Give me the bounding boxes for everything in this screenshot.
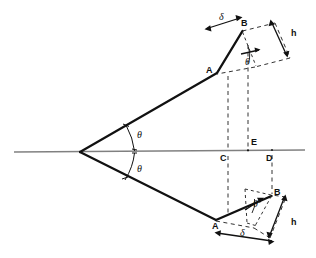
- theta-top-indicator-arrowhead: [255, 48, 261, 53]
- h-bottom-arrowhead-upper: [281, 195, 287, 202]
- lower-segment-ab-line: [216, 196, 272, 220]
- label-theta-top-right: θ: [245, 57, 250, 67]
- dashed-baseline-to-a-top: [217, 67, 255, 74]
- dashed-corner2-to-baseline-top: [255, 58, 290, 67]
- label-point-a-bottom: A: [212, 222, 219, 231]
- label-theta-bottom-right: θ: [253, 199, 258, 209]
- label-point-d: D: [266, 154, 273, 163]
- figure-root: A B A B C E D θ θ θ θ δ δ h h: [0, 0, 316, 258]
- delta-bottom-arrowhead-left: [215, 230, 222, 236]
- label-theta-lower-vertex: θ: [137, 164, 142, 174]
- label-point-b-bottom: B: [274, 188, 281, 197]
- delta-bottom-arrowhead-right: [268, 239, 275, 245]
- theta-lower-arc-tick-bottom: [122, 177, 128, 179]
- ray-diagram-canvas: [0, 0, 316, 258]
- upper-ray-line: [80, 73, 217, 152]
- label-delta-bottom: δ: [240, 228, 245, 238]
- label-h-top: h: [291, 29, 297, 38]
- optical-axis-line: [14, 150, 305, 152]
- label-point-a-top: A: [206, 66, 213, 75]
- h-bottom-arrow-line: [270, 197, 285, 236]
- label-h-bottom: h: [291, 218, 297, 227]
- dashed-corner-to-corner2-bottom: [270, 197, 286, 238]
- theta-upper-arc-tick-bottom: [132, 149, 137, 150]
- label-point-c: C: [220, 154, 227, 163]
- dashed-wedge-top-bottom: [245, 189, 271, 195]
- h-top-arrow-line: [272, 22, 287, 55]
- label-point-e: E: [251, 138, 257, 147]
- axis-point-e-marker: [247, 149, 249, 151]
- label-point-b-top: B: [241, 19, 248, 28]
- lower-ray-line: [80, 152, 216, 220]
- axis-point-d-marker: [271, 149, 273, 151]
- delta-top-arrowhead-left: [205, 25, 212, 31]
- upper-segment-ab-line: [217, 31, 243, 73]
- theta-upper-arc: [126, 125, 135, 151]
- label-theta-upper-vertex: θ: [137, 130, 142, 140]
- label-delta-top: δ: [219, 12, 224, 22]
- dashed-a-to-baseline-bottom: [216, 221, 254, 228]
